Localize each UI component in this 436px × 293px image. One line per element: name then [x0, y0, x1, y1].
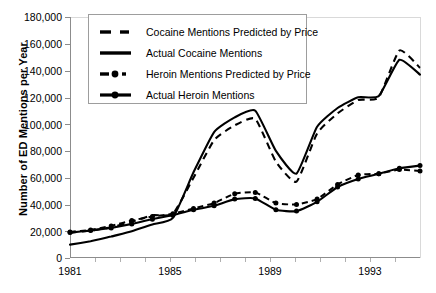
legend: Cocaine Mentions Predicted by Price Actu…: [88, 14, 307, 104]
solid-marker-line-swatch: [98, 88, 140, 102]
chart-container: Number of ED Mentions per Year 180,000 1…: [0, 0, 436, 293]
legend-item: Heroin Mentions Predicted by Price: [89, 63, 306, 84]
legend-item-label: Actual Heroin Mentions: [140, 89, 255, 101]
solid-line-swatch: [98, 46, 140, 60]
legend-item-label: Actual Cocaine Mentions: [140, 47, 262, 59]
legend-item: Actual Cocaine Mentions: [89, 42, 306, 63]
legend-item: Cocaine Mentions Predicted by Price: [89, 21, 306, 42]
series-line-heroin-predicted: [70, 170, 420, 232]
legend-item-label: Heroin Mentions Predicted by Price: [140, 68, 311, 80]
dashed-dot-line-swatch: [98, 67, 140, 81]
legend-item: Actual Heroin Mentions: [89, 84, 306, 105]
legend-item-label: Cocaine Mentions Predicted by Price: [140, 26, 318, 38]
dashed-line-swatch: [98, 25, 140, 39]
